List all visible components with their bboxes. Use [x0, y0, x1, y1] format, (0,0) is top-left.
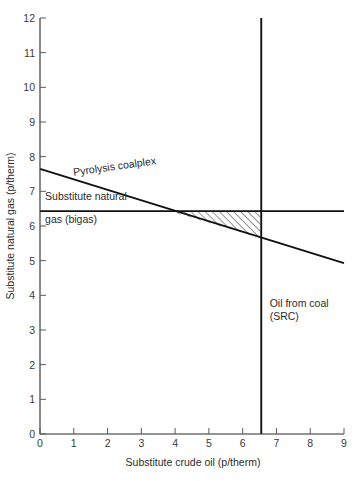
y-tick-label: 1 [29, 393, 35, 405]
src-label-line1: Oil from coal [270, 297, 329, 309]
series-lines [40, 18, 344, 434]
y-tick-label: 5 [29, 255, 35, 267]
chart-figure: 0123456789 0123456789101112 Substitute c… [0, 0, 354, 481]
pyrolysis-coalplex-label: Pyrolysis coalplex [72, 154, 157, 178]
y-tick-label: 8 [29, 151, 35, 163]
y-tick-label: 12 [23, 12, 35, 24]
y-tick-label: 9 [29, 116, 35, 128]
y-axis-tick-marks [40, 18, 46, 434]
y-tick-label: 10 [23, 81, 35, 93]
x-tick-label: 0 [37, 437, 43, 449]
chart-svg: 0123456789 0123456789101112 Substitute c… [0, 0, 354, 481]
x-tick-label: 5 [206, 437, 212, 449]
x-axis-tick-labels: 0123456789 [37, 437, 347, 449]
x-tick-label: 6 [240, 437, 246, 449]
shaded-region-advantage-triangle [168, 211, 262, 238]
x-tick-label: 9 [341, 437, 347, 449]
y-tick-label: 2 [29, 359, 35, 371]
x-tick-label: 4 [172, 437, 178, 449]
y-tick-label: 6 [29, 220, 35, 232]
bigas-label-line2: gas (bigas) [45, 213, 97, 225]
axes [40, 18, 344, 434]
y-tick-label: 11 [24, 47, 35, 59]
y-axis-title: Substitute natural gas (p/therm) [4, 152, 16, 299]
y-tick-label: 3 [29, 324, 35, 336]
x-tick-label: 2 [105, 437, 111, 449]
y-axis-tick-labels: 0123456789101112 [23, 12, 35, 440]
x-tick-label: 1 [71, 437, 77, 449]
x-tick-label: 8 [307, 437, 313, 449]
y-tick-label: 0 [29, 428, 35, 440]
bigas-label-line1: Substitute natural [45, 190, 127, 202]
x-axis-title: Substitute crude oil (p/therm) [126, 456, 261, 468]
y-tick-label: 7 [29, 185, 35, 197]
x-axis-tick-marks [40, 428, 344, 434]
chart-annotations: Pyrolysis coalplexSubstitute naturalgas … [45, 154, 329, 321]
x-tick-label: 7 [274, 437, 280, 449]
x-tick-label: 3 [138, 437, 144, 449]
y-tick-label: 4 [29, 289, 35, 301]
src-label-line2: (SRC) [270, 310, 299, 322]
